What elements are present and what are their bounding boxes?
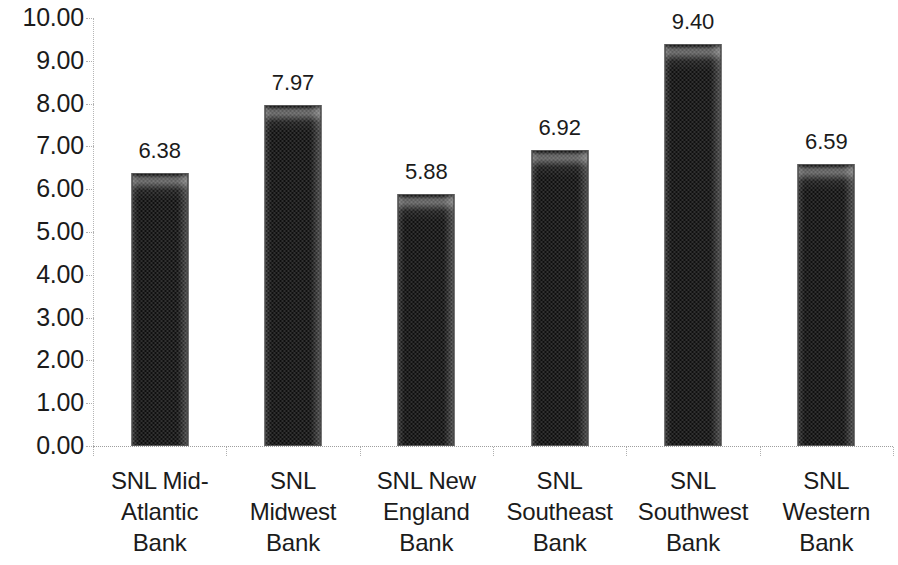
x-axis-category-label-line: Bank bbox=[226, 527, 359, 558]
y-axis-tick-label: 5.00 bbox=[0, 219, 84, 244]
y-axis-tick-label: 6.00 bbox=[0, 176, 84, 201]
x-axis-category-label-line: Western bbox=[760, 496, 893, 527]
y-axis-tick-label: 2.00 bbox=[0, 347, 84, 372]
x-axis-tick-mark bbox=[360, 447, 361, 456]
bar-chart: 10.009.008.007.006.005.004.003.002.001.0… bbox=[0, 0, 898, 565]
y-axis-tick-label: 8.00 bbox=[0, 91, 84, 116]
bar-group: 7.97 bbox=[226, 0, 359, 446]
y-axis-tick-label: 3.00 bbox=[0, 305, 84, 330]
x-axis-category-label: SNLSouthwestBank bbox=[626, 465, 759, 558]
x-axis-category-label-line: Bank bbox=[493, 527, 626, 558]
y-axis-tick-label: 0.00 bbox=[0, 433, 84, 458]
x-axis-tick-mark bbox=[626, 447, 627, 456]
bar-group: 6.38 bbox=[93, 0, 226, 446]
x-axis-category-label-line: Midwest bbox=[226, 496, 359, 527]
x-axis-category-label: SNLMidwestBank bbox=[226, 465, 359, 558]
bar-value-label: 6.38 bbox=[138, 140, 180, 162]
y-axis-labels: 10.009.008.007.006.005.004.003.002.001.0… bbox=[0, 0, 84, 460]
bar-group: 6.59 bbox=[760, 0, 893, 446]
x-axis-tick-mark bbox=[760, 447, 761, 456]
bar-value-label: 9.40 bbox=[672, 11, 714, 33]
bar-value-label: 7.97 bbox=[272, 72, 314, 94]
bar[interactable] bbox=[531, 150, 588, 446]
x-axis-category-label: SNL NewEnglandBank bbox=[360, 465, 493, 558]
x-axis-category-label-line: Southeast bbox=[493, 496, 626, 527]
x-axis-category-label-line: Bank bbox=[93, 527, 226, 558]
bar-value-label: 6.59 bbox=[805, 131, 847, 153]
x-axis-category-label-line: Bank bbox=[626, 527, 759, 558]
x-axis-category-label-line: Atlantic bbox=[93, 496, 226, 527]
x-axis-category-label-line: Bank bbox=[360, 527, 493, 558]
bar[interactable] bbox=[398, 194, 455, 446]
plot-area: 6.387.975.886.929.406.59 bbox=[93, 0, 893, 446]
x-axis-tick-mark bbox=[93, 447, 94, 456]
bar-group: 5.88 bbox=[360, 0, 493, 446]
x-axis-category-label: SNL Mid-AtlanticBank bbox=[93, 465, 226, 558]
x-axis-category-label-line: SNL bbox=[226, 465, 359, 496]
x-axis-category-label: SNLWesternBank bbox=[760, 465, 893, 558]
bar[interactable] bbox=[131, 173, 188, 446]
bar[interactable] bbox=[798, 164, 855, 446]
bar[interactable] bbox=[664, 44, 721, 446]
y-axis-tick-label: 1.00 bbox=[0, 390, 84, 415]
y-axis-tick-label: 10.00 bbox=[0, 5, 84, 30]
x-axis-category-label-line: Bank bbox=[760, 527, 893, 558]
x-axis-category-label-line: England bbox=[360, 496, 493, 527]
x-axis-tick-mark bbox=[226, 447, 227, 456]
x-axis-tick-mark bbox=[893, 447, 894, 456]
x-axis-category-label-line: SNL bbox=[760, 465, 893, 496]
bar-value-label: 5.88 bbox=[405, 161, 447, 183]
x-axis-labels: SNL Mid-AtlanticBankSNLMidwestBankSNL Ne… bbox=[93, 465, 893, 565]
y-axis-tick-label: 9.00 bbox=[0, 48, 84, 73]
y-axis-tick-label: 4.00 bbox=[0, 262, 84, 287]
bar[interactable] bbox=[264, 105, 321, 446]
x-axis-category-label: SNLSoutheastBank bbox=[493, 465, 626, 558]
bar-group: 6.92 bbox=[493, 0, 626, 446]
bar-group: 9.40 bbox=[626, 0, 759, 446]
x-axis-category-label-line: Southwest bbox=[626, 496, 759, 527]
x-axis-category-label-line: SNL bbox=[493, 465, 626, 496]
x-axis-category-label-line: SNL bbox=[626, 465, 759, 496]
x-axis-category-label-line: SNL New bbox=[360, 465, 493, 496]
x-axis-category-label-line: SNL Mid- bbox=[93, 465, 226, 496]
y-axis-tick-label: 7.00 bbox=[0, 133, 84, 158]
bar-value-label: 6.92 bbox=[538, 117, 580, 139]
x-axis-tick-mark bbox=[493, 447, 494, 456]
